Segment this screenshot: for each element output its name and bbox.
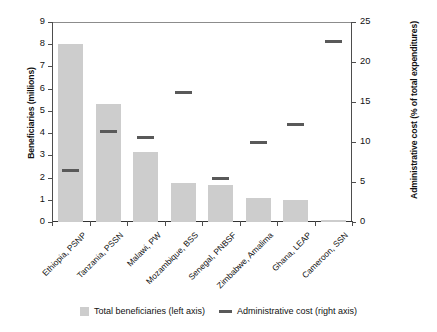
marker: [250, 141, 267, 144]
marker: [62, 169, 79, 172]
legend-label: Administrative cost (right axis): [237, 306, 357, 316]
y-right-tick: [352, 142, 356, 143]
y-left-tick-label: 5: [5, 105, 45, 115]
y-right-tick-label: 10: [360, 136, 400, 146]
x-axis-tick: [277, 221, 278, 226]
y-right-tick: [352, 182, 356, 183]
bar: [321, 220, 346, 222]
marker: [325, 40, 342, 43]
y-left-tick: [48, 133, 52, 134]
marker: [100, 130, 117, 133]
y-left-tick: [48, 200, 52, 201]
legend-line-swatch-icon: [219, 310, 232, 313]
legend-item: Total beneficiaries (left axis): [80, 306, 205, 316]
y-left-tick: [48, 178, 52, 179]
marker: [287, 123, 304, 126]
x-axis-tick: [165, 221, 166, 226]
y-right-tick-label: 5: [360, 176, 400, 186]
y-left-tick: [48, 111, 52, 112]
x-axis-tick: [240, 221, 241, 226]
y-left-tick: [48, 66, 52, 67]
chart-legend: Total beneficiaries (left axis)Administr…: [0, 306, 437, 316]
bar: [283, 200, 308, 222]
y-left-tick-label: 1: [5, 194, 45, 204]
y-right-tick-label: 20: [360, 56, 400, 66]
y-axis-right-title: Administrative cost (% of total expendit…: [409, 4, 419, 216]
y-right-tick-label: 25: [360, 16, 400, 26]
y-left-tick: [48, 89, 52, 90]
y-right-tick-label: 15: [360, 96, 400, 106]
bar: [96, 104, 121, 222]
y-left-tick-label: 9: [5, 16, 45, 26]
marker: [137, 136, 154, 139]
bar: [171, 183, 196, 222]
legend-item: Administrative cost (right axis): [219, 306, 357, 316]
y-right-tick: [352, 62, 356, 63]
y-left-tick-label: 6: [5, 83, 45, 93]
legend-bar-swatch-icon: [80, 307, 89, 316]
marker: [212, 177, 229, 180]
x-axis-tick: [315, 221, 316, 226]
bar: [208, 185, 233, 222]
bar: [58, 44, 83, 222]
x-axis-tick: [52, 221, 53, 226]
y-axis-right-line: [351, 22, 352, 222]
marker: [175, 91, 192, 94]
plot-area: 0123456789 0510152025: [52, 22, 352, 222]
y-axis-left-line: [52, 22, 53, 222]
y-left-tick-label: 3: [5, 149, 45, 159]
x-axis-tick: [202, 221, 203, 226]
y-right-tick: [352, 22, 356, 23]
y-left-tick-label: 7: [5, 60, 45, 70]
y-left-tick-label: 2: [5, 172, 45, 182]
chart-container: Beneficiaries (millions) Administrative …: [0, 0, 437, 332]
y-left-tick: [48, 155, 52, 156]
y-left-tick: [48, 22, 52, 23]
bar: [246, 198, 271, 222]
y-right-tick-label: 0: [360, 216, 400, 226]
y-left-tick-label: 8: [5, 38, 45, 48]
legend-label: Total beneficiaries (left axis): [94, 306, 205, 316]
plot-top-border: [52, 22, 352, 23]
y-left-tick-label: 4: [5, 127, 45, 137]
x-axis-tick: [127, 221, 128, 226]
y-right-tick: [352, 102, 356, 103]
y-left-tick-label: 0: [5, 216, 45, 226]
x-axis-tick: [352, 221, 353, 226]
x-axis-tick: [90, 221, 91, 226]
bar: [133, 152, 158, 222]
y-left-tick: [48, 44, 52, 45]
